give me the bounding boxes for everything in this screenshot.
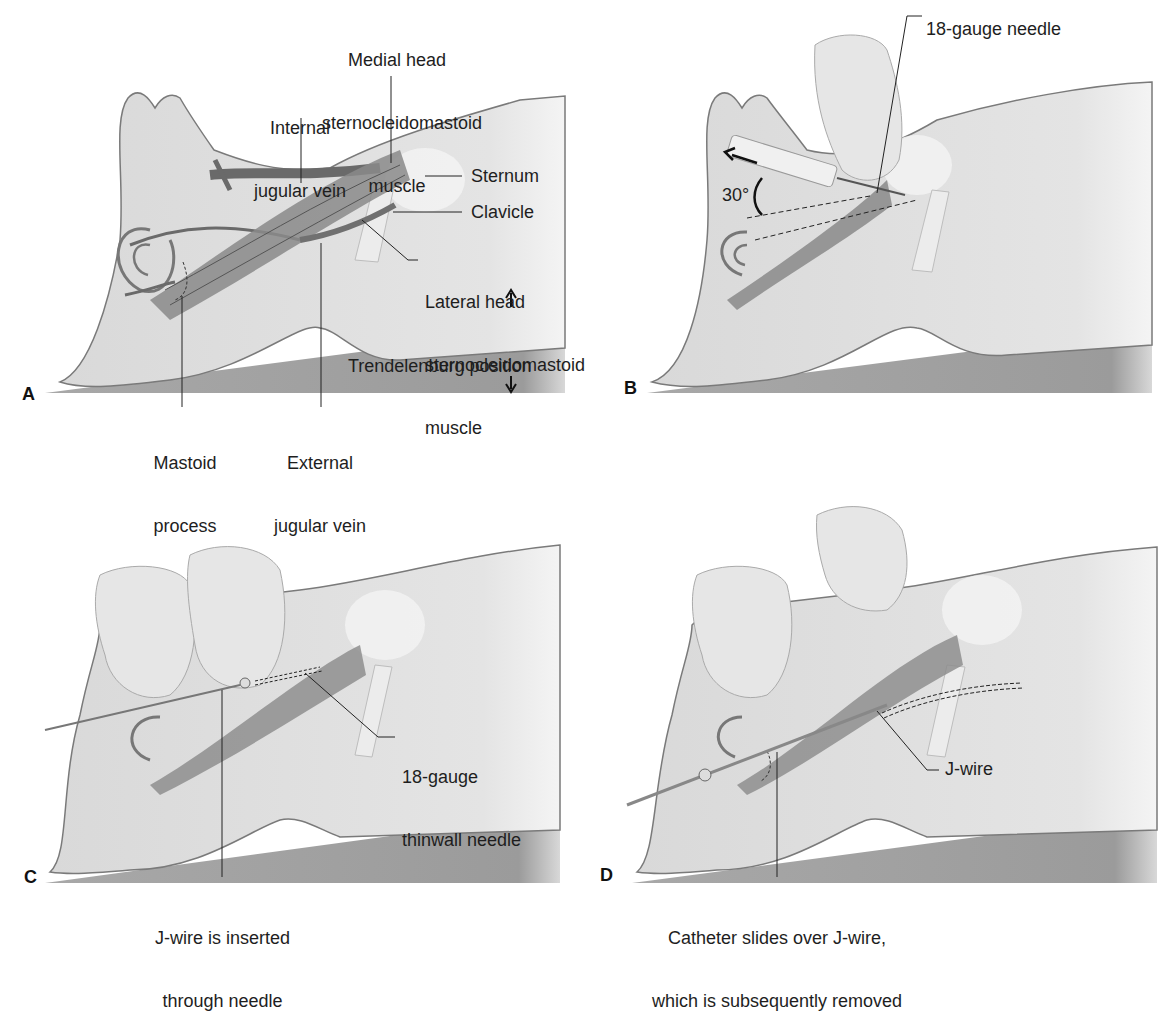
label-line: thinwall needle — [402, 830, 521, 851]
panel-letter-d: D — [600, 865, 613, 886]
panel-letter-a: A — [22, 384, 35, 405]
label-line: Medial head — [322, 50, 472, 71]
label-line: Internal — [245, 118, 355, 139]
label-catheter-slides-over-jwire: Catheter slides over J-wire, which is su… — [647, 886, 907, 1015]
label-trendelenburg-position: Trendelenburg position — [348, 356, 531, 377]
panel-letter-c: C — [24, 867, 37, 888]
label-clavicle: Clavicle — [471, 202, 534, 223]
label-internal-jugular-vein: Internal jugular vein — [245, 76, 355, 244]
label-sternum: Sternum — [471, 166, 539, 187]
label-line: Lateral head — [425, 292, 585, 313]
label-line: through needle — [135, 991, 310, 1012]
label-jwire-inserted-through-needle: J-wire is inserted through needle — [135, 886, 310, 1015]
label-18-gauge-needle: 18-gauge needle — [926, 19, 1061, 40]
panel-c: 18-gauge thinwall needle C J-wire is ins… — [0, 485, 587, 969]
label-line: jugular vein — [245, 181, 355, 202]
label-angle-30-degrees: 30° — [722, 185, 749, 206]
panel-a: Medial head sternocleidomastoid muscle I… — [0, 0, 587, 484]
label-line: Catheter slides over J-wire, — [647, 928, 907, 949]
label-line: J-wire is inserted — [135, 928, 310, 949]
label-line: muscle — [425, 418, 585, 439]
label-line: which is subsequently removed — [647, 991, 907, 1012]
panel-b-illustration — [587, 0, 1174, 484]
label-line: External — [265, 453, 375, 474]
panel-letter-b: B — [624, 378, 637, 399]
label-jwire: J-wire — [945, 759, 993, 780]
label-line: Mastoid — [140, 453, 230, 474]
label-18-gauge-thinwall-needle: 18-gauge thinwall needle — [402, 725, 521, 893]
panel-d: J-wire D Catheter slides over J-wire, wh… — [587, 485, 1174, 969]
label-line: 18-gauge — [402, 767, 521, 788]
panel-b: 18-gauge needle 30° B — [587, 0, 1174, 484]
